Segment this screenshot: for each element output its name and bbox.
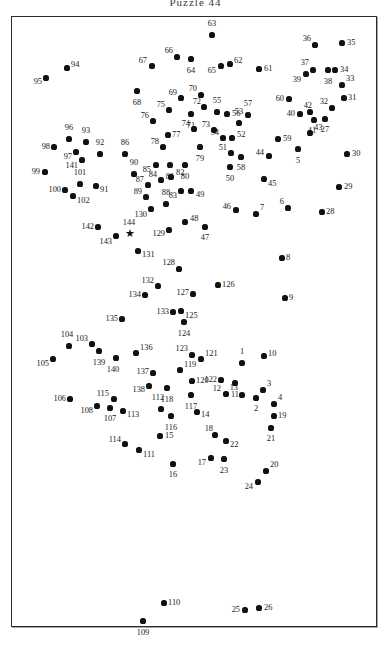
puzzle-dot [339,40,344,45]
puzzle-dot [107,405,112,410]
puzzle-dot [218,63,223,68]
puzzle-dot [233,207,238,212]
puzzle-dot [155,283,160,288]
puzzle-dot [135,248,140,253]
puzzle-dot [149,63,154,68]
puzzle-dot [336,184,341,189]
dot-label: 43 [314,124,322,132]
dot-label: 74 [182,120,190,128]
puzzle-dot [188,111,193,116]
puzzle-dot [150,370,155,375]
puzzle-dot [303,71,308,76]
dot-label: 28 [326,208,334,216]
puzzle-dot [83,139,88,144]
dot-label: 96 [65,124,73,132]
puzzle-dot [319,209,324,214]
puzzle-dot [122,441,127,446]
dot-label: 25 [232,606,240,614]
puzzle-dot [166,107,171,112]
puzzle-dot [150,118,155,123]
puzzle-dot [178,95,183,100]
puzzle-dot [332,67,337,72]
dot-label: 33 [346,75,354,83]
puzzle-dot [164,385,169,390]
page-title: Puzzle 44 [0,0,391,6]
dot-label: 93 [82,127,90,135]
dot-label: 140 [107,366,120,374]
puzzle-dot [238,154,243,159]
dot-label: 4 [278,394,282,402]
dot-label: 60 [276,95,284,103]
dot-label: 113 [127,411,139,419]
puzzle-dot [134,88,139,93]
dot-label: 8 [286,254,290,262]
dot-label: 65 [208,67,216,75]
puzzle-dot [170,461,175,466]
puzzle-dot [111,396,116,401]
dot-label: 107 [104,415,117,423]
puzzle-page: Puzzle 44 123456789101112131415161718192… [0,0,391,647]
dot-label: 62 [234,57,242,65]
puzzle-dot [202,224,207,229]
dot-label: 3 [267,380,271,388]
puzzle-dot [148,206,153,211]
dot-label: 70 [189,85,197,93]
puzzle-dot [256,605,261,610]
puzzle-dot [177,367,182,372]
puzzle-dot [297,111,302,116]
dot-label: 104 [61,331,74,339]
dot-label: 110 [168,599,180,607]
puzzle-dot [97,151,102,156]
puzzle-dot [67,396,72,401]
puzzle-dot [189,352,194,357]
puzzle-dot [263,468,268,473]
puzzle-dot [163,201,168,206]
dot-label: 105 [36,360,49,368]
puzzle-dot [146,383,151,388]
puzzle-dot [220,135,225,140]
puzzle-dot [307,130,312,135]
dot-label: 75 [157,101,165,109]
puzzle-dot [229,135,234,140]
puzzle-dot [51,144,56,149]
puzzle-dot [133,350,138,355]
puzzle-dot [261,176,266,181]
puzzle-dot [201,104,206,109]
puzzle-dot [227,164,232,169]
puzzle-dot [93,183,98,188]
dot-label: 100 [48,186,61,194]
dot-label: 102 [77,197,90,205]
puzzle-dot [271,413,276,418]
dot-label: 115 [97,390,109,398]
dot-label: 67 [139,57,147,65]
dot-label: 58 [237,164,245,172]
dot-label: 118 [161,396,173,404]
puzzle-dot [140,618,145,623]
puzzle-dot [211,127,216,132]
puzzle-dot [271,401,276,406]
puzzle-dot [165,132,170,137]
puzzle-dot [77,181,82,186]
puzzle-dot [188,188,193,193]
puzzle-dot [178,188,183,193]
dot-label: 131 [142,251,155,259]
dot-label: 86 [121,139,129,147]
puzzle-dot [242,607,247,612]
dot-label: 133 [156,308,169,316]
puzzle-dot [282,295,287,300]
puzzle-dot [260,387,265,392]
dot-label: 42 [304,102,312,110]
puzzle-dot [253,395,258,400]
dot-label: 122 [204,376,217,384]
dot-label: 22 [230,441,238,449]
puzzle-dot [239,392,244,397]
dot-label: 32 [320,98,328,106]
dot-label: 132 [141,277,154,285]
dot-label: 135 [105,315,118,323]
puzzle-dot [188,392,193,397]
puzzle-dot [310,67,315,72]
puzzle-dot [79,157,84,162]
dot-label: 49 [196,191,204,199]
dot-label: 9 [289,294,293,302]
puzzle-dot [198,356,203,361]
